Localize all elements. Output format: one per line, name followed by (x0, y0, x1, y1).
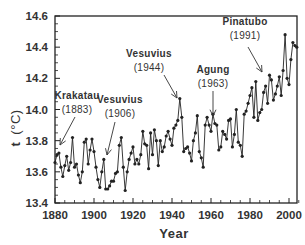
annotation-year: (1944) (134, 62, 165, 73)
x-tick-label: 1920 (120, 209, 146, 221)
annotation-label: Krakatau (54, 90, 99, 101)
data-point (217, 148, 220, 151)
x-tick-label: 1880 (42, 209, 68, 221)
data-point (73, 166, 76, 169)
data-point (215, 124, 218, 127)
data-point (272, 99, 275, 102)
annotation-label: Vesuvius (97, 94, 143, 105)
data-point (133, 162, 136, 165)
data-point (61, 175, 64, 178)
data-point (53, 161, 56, 164)
data-point (159, 139, 162, 142)
data-point (147, 167, 150, 170)
data-point (192, 139, 195, 142)
data-point (194, 131, 197, 134)
data-point (291, 41, 294, 44)
data-point (141, 130, 144, 133)
data-point (81, 170, 84, 173)
data-point (276, 85, 279, 88)
data-point (112, 180, 115, 183)
data-point (295, 46, 298, 49)
arrow-icon (164, 75, 177, 98)
data-point (200, 156, 203, 159)
data-point (221, 130, 224, 133)
x-tick-label: 1960 (198, 209, 224, 221)
data-point (77, 173, 80, 176)
data-point (85, 138, 88, 141)
annotation-label: Agung (196, 64, 229, 75)
data-point (223, 133, 226, 136)
data-point (182, 150, 185, 153)
annotation-label: Pinatubo (222, 16, 267, 27)
data-point (282, 69, 285, 72)
data-point (163, 145, 166, 148)
data-point (186, 145, 189, 148)
data-point (135, 158, 138, 161)
data-point (71, 136, 74, 139)
data-point (100, 170, 103, 173)
data-point (198, 150, 201, 153)
data-point (225, 138, 228, 141)
y-axis-title-symbol: t (8, 142, 23, 147)
y-tick-label: 13.6 (26, 166, 48, 178)
data-point (260, 108, 263, 111)
x-axis: 1880190019201940196019802000 (42, 198, 302, 221)
data-point (153, 128, 156, 131)
data-point (165, 134, 168, 137)
data-point (247, 102, 250, 105)
data-point (289, 58, 292, 61)
data-point (167, 130, 170, 133)
data-point (254, 80, 257, 83)
data-point (128, 158, 131, 161)
data-point (120, 136, 123, 139)
data-point (75, 162, 78, 165)
data-point (188, 152, 191, 155)
data-point (204, 124, 207, 127)
data-point (139, 153, 142, 156)
x-tick-label: 1980 (237, 209, 263, 221)
data-point (116, 170, 119, 173)
x-axis-title: Year (159, 226, 188, 241)
data-point (248, 94, 251, 97)
data-point (235, 108, 238, 111)
data-point (157, 164, 160, 167)
data-point (229, 117, 232, 120)
y-axis-title-unit: (°C) (8, 109, 23, 134)
data-point (258, 111, 261, 114)
data-point (161, 150, 164, 153)
data-point (118, 144, 121, 147)
data-point (202, 166, 205, 169)
data-point (59, 166, 62, 169)
data-point (87, 162, 90, 165)
data-point (278, 75, 281, 78)
data-point (209, 130, 212, 133)
data-point (280, 94, 283, 97)
data-point (67, 169, 70, 172)
annotation-vesuvius-1944: Vesuvius(1944) (126, 48, 177, 98)
data-point (241, 155, 244, 158)
data-point (239, 144, 242, 147)
annotation-year: (1963) (198, 78, 229, 89)
data-point (79, 181, 82, 184)
data-point (102, 158, 105, 161)
data-point (92, 150, 95, 153)
data-point (122, 166, 125, 169)
y-tick-label: 14.4 (26, 41, 49, 53)
data-point (178, 97, 181, 100)
data-point (108, 184, 111, 187)
data-point (149, 131, 152, 134)
data-point (106, 187, 109, 190)
y-tick-label: 14.0 (26, 104, 48, 116)
data-point (196, 114, 199, 117)
data-point (206, 116, 209, 119)
data-point (130, 152, 133, 155)
data-point (262, 91, 265, 94)
data-point (63, 164, 66, 167)
data-point (126, 170, 129, 173)
data-point (190, 159, 193, 162)
x-tick-label: 2000 (276, 209, 302, 221)
data-point (243, 113, 246, 116)
data-point (90, 138, 93, 141)
data-point (250, 86, 253, 89)
data-point (145, 144, 148, 147)
